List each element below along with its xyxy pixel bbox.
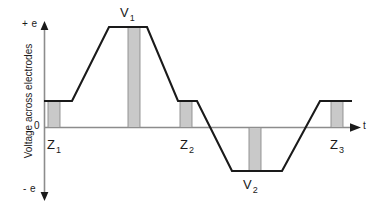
voltage-axis-arrowhead-up — [41, 21, 49, 30]
annotation-v2-base: V — [243, 177, 252, 192]
voltage-waveform-figure: + e 0 - e Voltage across electrodes t V1… — [0, 0, 379, 212]
time-axis-arrowhead — [350, 123, 361, 132]
voltage-waveform-trace — [44, 27, 352, 171]
annotation-v1: V1 — [120, 6, 134, 19]
axis-tick-zero: 0 — [34, 121, 40, 131]
band-v2 — [249, 128, 261, 172]
band-z1 — [48, 101, 60, 128]
annotation-v2: V2 — [243, 178, 257, 191]
annotation-z3-subscript: 3 — [339, 145, 344, 155]
axis-tick-negative-e: - e — [23, 184, 36, 194]
annotation-z2-subscript: 2 — [189, 145, 194, 155]
waveform-plot — [0, 0, 379, 212]
band-v1 — [128, 27, 140, 128]
band-z3 — [331, 101, 343, 128]
annotation-z1-subscript: 1 — [56, 145, 61, 155]
annotation-z3-base: Z — [330, 137, 338, 152]
annotation-z3: Z3 — [330, 138, 343, 151]
y-axis-title: Voltage across electrodes — [24, 26, 34, 176]
measurement-bands — [48, 27, 343, 172]
annotation-z2-base: Z — [180, 137, 188, 152]
annotation-v1-base: V — [120, 5, 129, 20]
annotation-z2: Z2 — [180, 138, 193, 151]
annotation-v1-subscript: 1 — [130, 13, 135, 23]
voltage-axis — [41, 21, 49, 201]
voltage-axis-arrowhead-down — [41, 192, 49, 201]
band-z2 — [180, 101, 192, 128]
time-axis — [44, 123, 361, 132]
annotation-z1-base: Z — [47, 137, 55, 152]
x-axis-label: t — [363, 121, 366, 131]
annotation-v2-subscript: 2 — [253, 185, 258, 195]
annotation-z1: Z1 — [47, 138, 60, 151]
